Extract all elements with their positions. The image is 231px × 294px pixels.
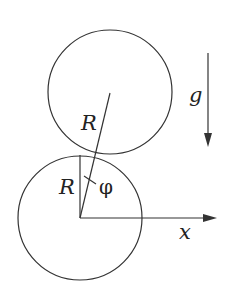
angle-label: φ bbox=[99, 175, 113, 199]
lower-radius-label: R bbox=[58, 175, 75, 199]
gravity-arrowhead bbox=[204, 133, 212, 147]
upper-radius-label: R bbox=[80, 111, 97, 135]
x-axis-arrowhead bbox=[203, 214, 217, 222]
x-axis-label: x bbox=[179, 220, 191, 244]
upper-circle bbox=[48, 30, 172, 154]
gravity-label: g bbox=[189, 83, 202, 107]
diagram-canvas: R R φ g x bbox=[0, 0, 231, 294]
